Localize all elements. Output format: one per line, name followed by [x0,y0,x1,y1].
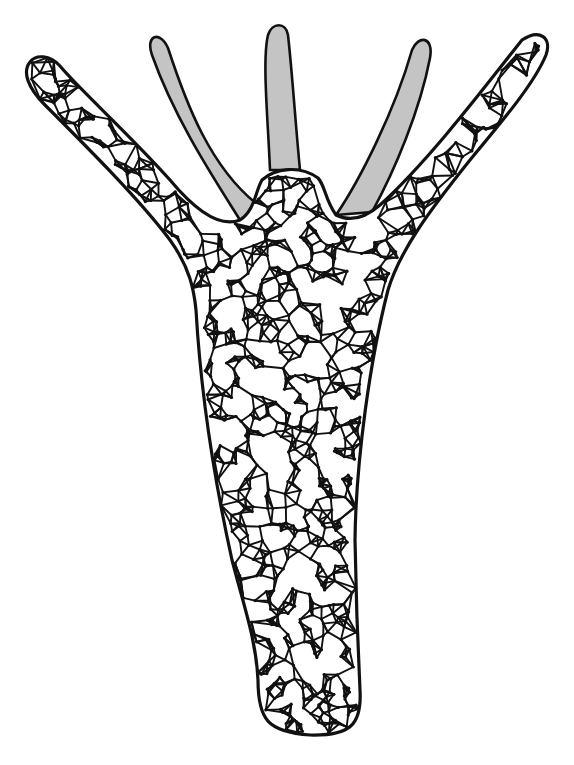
neuron-node [114,163,117,166]
neuron-node [289,215,292,218]
neuron-node [284,412,287,415]
neuron-node [237,377,240,380]
neuron-node [262,434,265,437]
neuron-node [334,350,337,353]
nerve-fiber [165,215,166,230]
neuron-node [67,109,70,112]
neuron-node [338,722,341,725]
neuron-node [301,730,304,733]
neuron-node [334,418,337,421]
neuron-node [288,647,291,650]
neuron-node [241,295,244,298]
neuron-node [288,543,291,546]
neuron-node [217,233,220,236]
nerve-fiber [281,436,292,437]
neuron-node [246,534,249,537]
neuron-node [239,420,242,423]
nerve-fiber [381,256,397,257]
neuron-node [240,553,243,556]
neuron-node [358,393,361,396]
neuron-node [347,705,350,708]
neuron-node [277,175,280,178]
neuron-node [316,535,319,538]
neuron-node [284,506,287,509]
nerve-fiber [355,331,371,332]
neuron-node [297,550,300,553]
nerve-fiber [402,193,416,194]
neuron-node [249,413,252,416]
neuron-node [308,177,311,180]
neuron-node [335,406,338,409]
neuron-node [283,637,286,640]
neuron-node [253,599,256,602]
neuron-node [283,547,286,550]
neuron-node [323,392,326,395]
neuron-node [229,522,232,525]
neuron-node [296,265,299,268]
neuron-node [282,567,285,570]
neuron-node [332,693,335,696]
neuron-node [279,272,282,275]
neuron-node [264,189,267,192]
nerve-fiber [218,250,219,262]
neuron-node [225,414,228,417]
neuron-node [51,69,54,72]
neuron-node [515,53,518,56]
neuron-node [333,425,336,428]
nerve-fiber [267,474,268,493]
neuron-node [328,220,331,223]
neuron-node [295,502,298,505]
neuron-node [309,557,312,560]
neuron-node [343,536,346,539]
neuron-node [353,458,356,461]
neuron-node [283,388,286,391]
neuron-node [308,444,311,447]
neuron-node [245,261,248,264]
neuron-node [102,145,105,148]
neuron-node [292,386,295,389]
nerve-fiber [316,433,331,434]
neuron-node [279,224,282,227]
neuron-node [295,589,298,592]
neuron-node [269,189,272,192]
neuron-node [189,215,192,218]
nerve-fiber [171,223,172,236]
nerve-fiber [32,63,33,79]
neuron-node [214,452,217,455]
nerve-fiber [218,234,219,250]
neuron-node [345,646,348,649]
neuron-node [314,433,317,436]
neuron-node [325,695,328,698]
neuron-node [231,530,234,533]
neuron-node [256,313,259,316]
neuron-node [333,257,336,260]
neuron-node [322,275,325,278]
neuron-node [220,238,223,241]
neuron-node [280,529,283,532]
neuron-node [357,436,360,439]
neuron-node [476,126,479,129]
neuron-node [268,414,271,417]
neuron-node [306,380,309,383]
nerve-fiber [330,679,331,692]
neuron-node [320,584,323,587]
nerve-fiber [321,321,322,335]
neuron-node [267,231,270,234]
neuron-node [358,383,361,386]
neuron-node [292,664,295,667]
neuron-node [183,253,186,256]
neuron-node [332,720,335,723]
neuron-node [306,221,309,224]
neuron-node [266,663,269,666]
neuron-node [281,694,284,697]
neuron-node [333,541,336,544]
neuron-node [334,447,337,450]
neuron-node [303,516,306,519]
neuron-node [244,434,247,437]
nerve-fiber [318,409,330,410]
neuron-node [332,603,335,606]
nerve-fiber [286,413,287,425]
neuron-node [533,42,536,45]
neuron-node [219,444,222,447]
neuron-node [336,673,339,676]
